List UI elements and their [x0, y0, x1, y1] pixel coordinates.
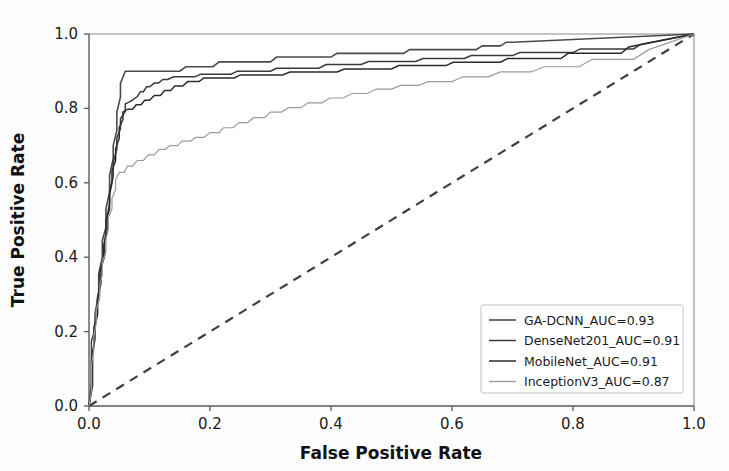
x-axis-title: False Positive Rate: [300, 443, 482, 463]
roc-curve-figure: 0.00.20.40.60.81.0 0.00.20.40.60.81.0 Fa…: [0, 0, 729, 471]
legend-label-mobilenet: MobileNet_AUC=0.91: [524, 354, 658, 369]
y-axis-title: True Positive Rate: [8, 133, 28, 307]
legend-label-ga-dcnn: GA-DCNN_AUC=0.93: [524, 313, 655, 328]
y-tick-label: 0.0: [54, 397, 78, 415]
y-tick-label: 0.4: [54, 248, 78, 266]
x-tick-label: 0.6: [440, 415, 464, 433]
roc-plot-canvas: 0.00.20.40.60.81.0 0.00.20.40.60.81.0 Fa…: [0, 0, 729, 471]
legend-label-densenet201: DenseNet201_AUC=0.91: [524, 333, 680, 348]
x-tick-label: 0.4: [319, 415, 343, 433]
x-tick-label: 1.0: [682, 415, 706, 433]
legend-label-inceptionv3: InceptionV3_AUC=0.87: [524, 374, 670, 389]
y-tick-label: 0.6: [54, 174, 78, 192]
x-tick-label: 0.0: [77, 415, 101, 433]
x-tick-label: 0.2: [198, 415, 222, 433]
chart-legend[interactable]: GA-DCNN_AUC=0.93DenseNet201_AUC=0.91Mobi…: [481, 305, 683, 393]
y-tick-label: 1.0: [54, 25, 78, 43]
x-tick-label: 0.8: [561, 415, 585, 433]
y-tick-label: 0.2: [54, 323, 78, 341]
y-tick-label: 0.8: [54, 99, 78, 117]
